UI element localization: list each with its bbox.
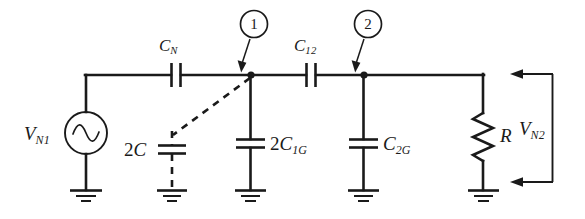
node-marker-1-label: 1 bbox=[246, 17, 262, 32]
capacitor-2c-label: 2C bbox=[124, 140, 146, 159]
voltage-vn2-label: VN2 bbox=[519, 119, 545, 138]
resistor-r-label: R bbox=[500, 126, 512, 145]
ground-r-symbol bbox=[468, 191, 499, 202]
circuit-schematic-svg bbox=[0, 0, 585, 219]
voltage-source-vn1-symbol bbox=[65, 112, 107, 190]
dashed-connection-node1-to-2c bbox=[173, 78, 250, 135]
capacitor-c12-symbol bbox=[307, 63, 316, 87]
resistor-r-symbol bbox=[473, 113, 493, 161]
capacitor-cn-label: CN bbox=[159, 37, 178, 54]
node-marker-1-leader bbox=[238, 39, 250, 73]
circuit-diagram: CN C12 1 2 VN1 2C 2C1G C2G R VN2 bbox=[0, 0, 585, 219]
capacitor-2c1g-label: 2C1G bbox=[270, 134, 307, 153]
capacitor-c2g-symbol bbox=[349, 140, 378, 148]
capacitor-c12-label: C12 bbox=[294, 37, 316, 54]
node-marker-2-label: 2 bbox=[360, 17, 376, 32]
capacitor-2c-symbol bbox=[158, 146, 186, 154]
node-marker-2-leader bbox=[352, 39, 364, 73]
capacitor-cn-symbol bbox=[172, 63, 181, 87]
ground-2c1g-symbol bbox=[235, 191, 266, 202]
capacitor-2c1g-symbol bbox=[236, 140, 265, 148]
capacitor-c2g-label: C2G bbox=[383, 134, 411, 153]
ground-source-symbol bbox=[70, 191, 102, 202]
ground-c2g-symbol bbox=[348, 191, 379, 202]
voltage-source-vn1-label: VN1 bbox=[24, 124, 50, 143]
ground-2c-symbol bbox=[157, 191, 187, 202]
